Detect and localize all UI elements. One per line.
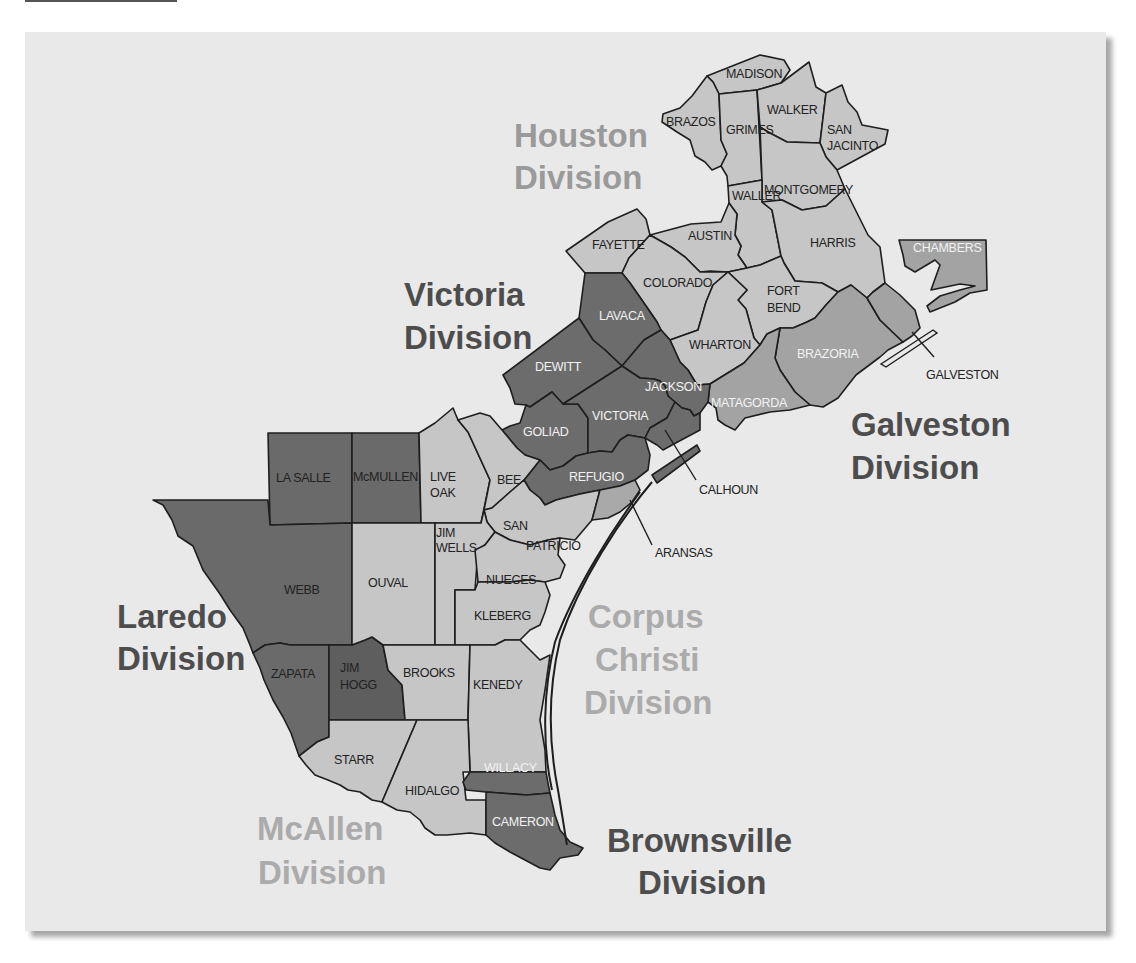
division-houston: Houston Division [514,117,648,196]
label-brazos: BRAZOS [666,115,716,129]
leader-aransas [630,500,652,545]
svg-text:Galveston: Galveston [851,406,1011,443]
label-brazoria: BRAZORIA [797,347,859,361]
label-chambers: CHAMBERS [913,241,981,255]
label-starr: STARR [334,753,374,767]
label-webb: WEBB [284,583,320,597]
label-lavaca: LAVACA [599,309,646,323]
label-live-oak-1: LIVE [430,470,456,484]
label-fort-bend-2: BEND [767,301,801,315]
label-jackson: JACKSON [645,380,702,394]
division-laredo: Laredo Division [117,598,245,677]
label-brooks: BROOKS [403,666,455,680]
svg-text:Division: Division [584,684,712,721]
label-kenedy: KENEDY [473,678,524,692]
label-jim-wells-2: WELLS [436,541,477,555]
matagorda-island [652,445,700,483]
county-kenedy[interactable] [468,640,550,772]
label-fayette: FAYETTE [592,238,645,252]
label-cameron: CAMERON [492,815,554,829]
label-jim-hogg-2: HOGG [340,678,377,692]
svg-text:Victoria: Victoria [404,276,525,313]
district-map: MADISON BRAZOS GRIMES WALKER SAN JACINTO… [0,0,1136,963]
label-goliad: GOLIAD [523,425,569,439]
label-san-jacinto-1: SAN [827,123,852,137]
division-brownsville: Brownsville Division [607,822,792,901]
label-matagorda: MATAGORDA [711,396,788,410]
svg-text:Brownsville: Brownsville [607,822,792,859]
label-austin: AUSTIN [688,229,732,243]
svg-text:Division: Division [404,319,532,356]
label-mcmullen: McMULLEN [353,470,418,484]
county-zapata[interactable] [253,643,329,756]
label-bee: BEE [497,473,521,487]
label-refugio: REFUGIO [569,470,624,484]
label-live-oak-2: OAK [430,486,456,500]
svg-text:Division: Division [117,640,245,677]
svg-text:Division: Division [638,864,766,901]
label-hidalgo: HIDALGO [405,784,460,798]
svg-text:Division: Division [514,159,642,196]
label-wharton: WHARTON [689,338,751,352]
svg-text:McAllen: McAllen [257,810,384,847]
label-zapata: ZAPATA [271,667,316,681]
label-dewitt: DEWITT [535,360,582,374]
county-willacy[interactable] [463,772,550,795]
label-harris: HARRIS [810,236,855,250]
label-san-jacinto-2: JACINTO [827,139,879,153]
label-colorado: COLORADO [643,276,713,290]
label-kleberg: KLEBERG [474,609,531,623]
svg-text:Houston: Houston [514,117,648,154]
label-montgomery: MONTGOMERY [764,183,854,197]
svg-text:Division: Division [258,854,386,891]
county-grimes[interactable] [719,90,762,186]
division-victoria: Victoria Division [404,276,532,356]
label-nueces: NUECES [486,573,536,587]
svg-text:Christi: Christi [595,641,700,678]
label-jim-hogg-1: JIM [340,661,359,675]
division-mcallen: McAllen Division [257,810,386,891]
division-corpus-christi: Corpus Christi Division [584,598,712,721]
label-la-salle: LA SALLE [276,471,331,485]
label-fort-bend-1: FORT [767,284,800,298]
label-grimes: GRIMES [726,123,774,137]
label-duval: OUVAL [368,576,408,590]
label-walker: WALKER [767,103,818,117]
svg-text:Laredo: Laredo [117,598,227,635]
county-cameron[interactable] [486,792,583,870]
svg-text:Division: Division [851,449,979,486]
label-san-patricio-1: SAN [503,519,528,533]
label-san-patricio-2: PATRICIO [526,539,581,553]
label-willacy: WILLACY [484,761,538,775]
label-victoria: VICTORIA [592,409,649,423]
label-galveston: GALVESTON [926,368,999,382]
label-madison: MADISON [726,67,783,81]
svg-text:Corpus: Corpus [588,598,704,635]
label-calhoun: CALHOUN [699,483,758,497]
division-galveston: Galveston Division [851,406,1011,486]
label-jim-wells-1: JIM [436,526,455,540]
label-aransas: ARANSAS [655,546,713,560]
